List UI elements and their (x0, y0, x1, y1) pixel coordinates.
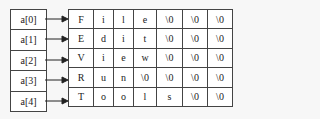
char-cell: \0 (157, 68, 183, 87)
char-cell: t (134, 29, 157, 48)
char-cell: o (114, 87, 134, 106)
char-cell: \0 (208, 48, 233, 67)
char-cell: \0 (157, 29, 183, 48)
char-cell: \0 (183, 68, 208, 87)
char-cell: \0 (183, 87, 208, 106)
table-row: File\0\0\0 (69, 10, 233, 29)
table-row: View\0\0\0 (69, 48, 233, 67)
char-cell: \0 (183, 48, 208, 67)
char-cell: n (114, 68, 134, 87)
char-cell: \0 (183, 29, 208, 48)
table-row: Tools\0\0 (69, 87, 233, 106)
table-row: Run\0\0\0\0 (69, 68, 233, 87)
char-cell: s (157, 87, 183, 106)
char-cell: w (134, 48, 157, 67)
char-cell: \0 (157, 48, 183, 67)
char-cell: E (69, 29, 94, 48)
char-cell: e (114, 48, 134, 67)
char-cell: \0 (208, 87, 233, 106)
char-cell: \0 (134, 68, 157, 87)
char-cell: \0 (208, 10, 233, 29)
string-table: File\0\0\0 Edit\0\0\0 View\0\0\0 Run\0\0… (68, 9, 233, 107)
char-cell: \0 (157, 10, 183, 29)
char-cell: F (69, 10, 94, 29)
char-cell: R (69, 68, 94, 87)
char-cell: l (134, 87, 157, 106)
char-cell: \0 (183, 10, 208, 29)
char-cell: e (134, 10, 157, 29)
char-cell: V (69, 48, 94, 67)
char-cell: T (69, 87, 94, 106)
char-cell: o (94, 87, 114, 106)
table-row: Edit\0\0\0 (69, 29, 233, 48)
char-cell: i (94, 10, 114, 29)
char-cell: i (94, 48, 114, 67)
char-cell: u (94, 68, 114, 87)
char-cell: \0 (208, 29, 233, 48)
char-cell: d (94, 29, 114, 48)
char-cell: i (114, 29, 134, 48)
char-cell: l (114, 10, 134, 29)
char-cell: \0 (208, 68, 233, 87)
